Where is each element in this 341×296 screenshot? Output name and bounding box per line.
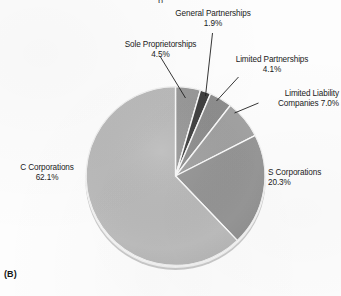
- slice-label-c-corporations: C Corporations 62.1%: [11, 163, 83, 184]
- pie-disc-shading: [86, 87, 265, 266]
- slice-value-text: 20.3%: [268, 178, 341, 188]
- slice-label-limited-liability-companies: Limited Liability Companies 7.0%: [215, 89, 339, 110]
- figure-panel: Sole Proprietorships 4.5% General Partne…: [0, 0, 341, 296]
- slice-label-s-corporations: S Corporations 20.3%: [268, 168, 341, 189]
- slice-label-text: Limited Liability: [285, 89, 339, 98]
- slice-label-text: Limited Partnerships: [236, 55, 309, 64]
- slice-label-sole-proprietorships: Sole Proprietorships 4.5%: [95, 40, 226, 61]
- slice-value-text: 1.9%: [153, 19, 273, 29]
- slice-label-general-partnerships: General Partnerships 1.9%: [153, 9, 273, 30]
- slice-value-text: Companies 7.0%: [215, 99, 339, 109]
- panel-label: (B): [4, 269, 17, 279]
- slice-value-text: 62.1%: [11, 173, 83, 183]
- slice-value-text: 4.5%: [95, 50, 226, 60]
- cropped-title-fragment: p: [158, 0, 184, 3]
- slice-label-text: Sole Proprietorships: [125, 40, 197, 49]
- slice-label-text: C Corporations: [20, 163, 74, 172]
- slice-value-text: 4.1%: [217, 65, 327, 75]
- slice-label-limited-partnerships: Limited Partnerships 4.1%: [217, 55, 327, 76]
- slice-label-text: General Partnerships: [175, 9, 250, 18]
- slice-label-text: S Corporations: [268, 168, 321, 177]
